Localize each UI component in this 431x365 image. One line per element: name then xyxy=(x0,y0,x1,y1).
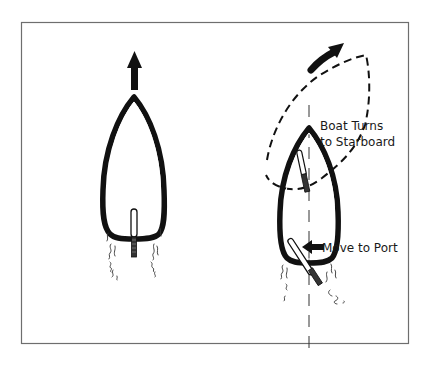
panel-turn: Boat Turns to Starboard Move to Port xyxy=(266,43,398,355)
panel-straight xyxy=(103,51,165,280)
tiller-centered xyxy=(131,209,137,257)
move-port-arrow-icon xyxy=(302,240,324,254)
diagram-canvas: Boat Turns to Starboard Move to Port xyxy=(0,0,431,365)
steering-diagram: Boat Turns to Starboard Move to Port xyxy=(0,0,431,365)
label-boat-turns: Boat Turns xyxy=(320,119,383,133)
turn-direction-arrow-icon xyxy=(311,43,344,70)
diagram-frame xyxy=(22,23,409,344)
label-move-to-port: Move to Port xyxy=(322,241,398,255)
label-to-starboard: to Starboard xyxy=(320,135,395,149)
forward-arrow-icon xyxy=(127,51,142,90)
tiller-ghost xyxy=(296,150,309,193)
